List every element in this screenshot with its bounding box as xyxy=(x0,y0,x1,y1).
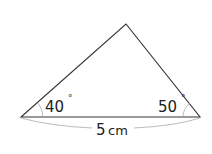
base-length-number: 5 xyxy=(96,121,106,139)
angle-label-left: 40 xyxy=(45,98,64,116)
angle-arc-left xyxy=(38,103,43,117)
degree-sign-left: ° xyxy=(68,93,73,103)
base-length-unit: cm xyxy=(108,123,128,138)
angle-label-right: 50 xyxy=(158,98,177,116)
triangle-diagram: 40 ° 50 ° 5 cm xyxy=(0,0,212,154)
degree-sign-right: ° xyxy=(181,93,186,103)
dimension-arc-left xyxy=(21,118,92,128)
dimension-arc-right xyxy=(134,118,200,128)
angle-arc-right xyxy=(183,104,190,117)
